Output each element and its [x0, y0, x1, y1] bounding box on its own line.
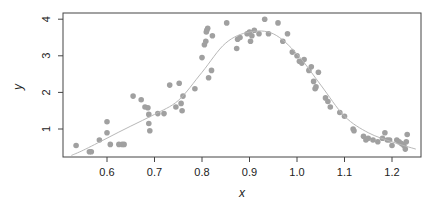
data-point: [199, 55, 205, 61]
y-tick-label: 2: [40, 89, 52, 95]
data-point: [249, 33, 255, 39]
data-point: [89, 149, 95, 155]
data-point: [370, 137, 376, 143]
data-point: [121, 142, 127, 148]
data-point: [275, 20, 281, 26]
data-point: [178, 101, 184, 107]
data-point: [365, 135, 371, 141]
data-point: [108, 142, 114, 148]
data-point: [130, 93, 136, 99]
data-point: [203, 38, 209, 44]
data-point: [313, 84, 319, 90]
data-point: [382, 130, 388, 136]
data-point: [145, 105, 151, 111]
data-point: [209, 68, 215, 74]
data-point: [328, 104, 334, 110]
data-point: [252, 27, 258, 33]
plot-svg: 0.60.70.80.91.01.11.2 1234 x y: [0, 0, 440, 207]
data-point: [256, 31, 262, 37]
data-point: [147, 128, 153, 134]
data-point: [404, 132, 410, 138]
data-point: [403, 146, 409, 152]
data-point: [104, 130, 110, 136]
data-point: [262, 16, 268, 22]
data-point: [104, 119, 110, 125]
x-tick-label: 0.6: [99, 166, 114, 178]
y-tick-label: 1: [40, 126, 52, 132]
data-point: [351, 128, 357, 134]
data-point: [224, 20, 230, 26]
data-point: [311, 79, 317, 85]
data-point: [285, 31, 291, 37]
x-tick-label: 0.9: [242, 166, 257, 178]
data-point: [173, 104, 179, 110]
data-point: [389, 143, 395, 149]
data-point: [73, 143, 79, 149]
x-tick-label: 1.2: [384, 166, 399, 178]
data-point: [179, 108, 185, 114]
data-point: [316, 70, 322, 76]
y-axis: 1234: [40, 16, 63, 132]
data-point: [234, 46, 240, 52]
data-point: [210, 33, 216, 39]
data-points: [73, 16, 410, 154]
x-tick-label: 1.0: [289, 166, 304, 178]
y-tick-label: 4: [40, 16, 52, 22]
data-point: [404, 139, 410, 145]
x-tick-label: 0.7: [147, 166, 162, 178]
x-tick-label: 0.8: [194, 166, 209, 178]
data-point: [161, 111, 167, 117]
x-axis: 0.60.70.80.91.01.11.2: [99, 157, 399, 178]
data-point: [205, 26, 211, 32]
data-point: [248, 38, 254, 44]
x-tick-label: 1.1: [337, 166, 352, 178]
data-point: [167, 82, 173, 88]
plot-frame: [63, 13, 421, 157]
data-point: [192, 86, 198, 92]
x-axis-label: x: [238, 186, 246, 200]
data-point: [325, 99, 331, 105]
data-point: [375, 139, 381, 145]
data-point: [146, 121, 152, 127]
data-point: [290, 49, 296, 55]
scatter-chart: 0.60.70.80.91.01.11.2 1234 x y: [0, 0, 440, 207]
data-point: [138, 97, 144, 103]
y-axis-label: y: [11, 83, 25, 91]
data-point: [206, 75, 212, 81]
y-tick-label: 3: [40, 53, 52, 59]
data-point: [176, 81, 182, 87]
